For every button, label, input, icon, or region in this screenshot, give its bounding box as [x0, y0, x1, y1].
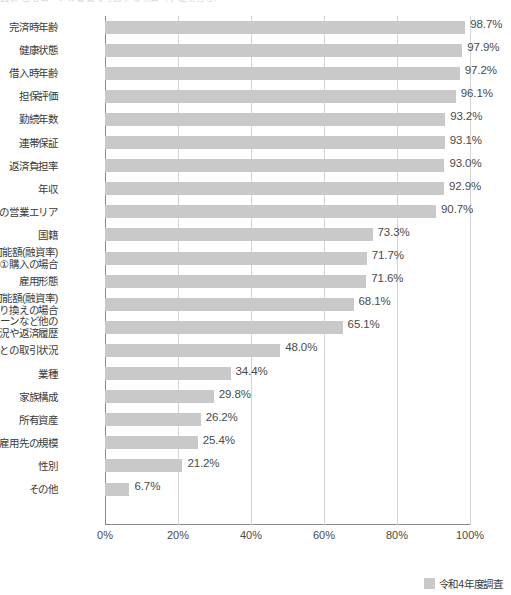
- bar-row: 71.6%雇用形態: [105, 270, 470, 293]
- chart-title-clipped: 図表 住宅ローンの審査で考慮する項目（予定を含む）: [0, 0, 511, 4]
- x-tick-label: 100%: [456, 529, 484, 541]
- x-tick-label: 40%: [240, 529, 262, 541]
- bar: [105, 67, 460, 80]
- bar: [105, 321, 343, 334]
- x-tick-label: 80%: [386, 529, 408, 541]
- bar-value-label: 29.8%: [219, 388, 251, 400]
- bar: [105, 413, 201, 426]
- category-label: 業種: [0, 368, 58, 381]
- category-label: 家族構成: [0, 391, 58, 404]
- bar: [105, 390, 214, 403]
- bar-row: 26.2%所有資産: [105, 409, 470, 432]
- bar-row: 93.1%連帯保証: [105, 132, 470, 155]
- bar: [105, 459, 182, 472]
- x-tick-label: 60%: [313, 529, 335, 541]
- category-label: 年収: [0, 183, 58, 196]
- bar-chart: 図表 住宅ローンの審査で考慮する項目（予定を含む） 98.7%完済時年齢97.9…: [0, 0, 511, 595]
- bar-value-label: 96.1%: [461, 87, 493, 99]
- bar: [105, 205, 436, 218]
- category-label: 金融機関の営業エリア: [0, 206, 58, 219]
- chart-title-text: 図表 住宅ローンの審査で考慮する項目（予定を含む）: [0, 0, 511, 4]
- bar-row: 92.9%年収: [105, 178, 470, 201]
- category-label: 返済負担率: [0, 160, 58, 173]
- category-label: 借入時年齢: [0, 67, 58, 80]
- bar: [105, 159, 444, 172]
- bar-row: 25.4%雇用先の規模: [105, 432, 470, 455]
- bar-value-label: 92.9%: [449, 180, 481, 192]
- bar: [105, 182, 444, 195]
- bar-value-label: 6.7%: [134, 480, 160, 492]
- bar-row: 6.7%その他: [105, 478, 470, 501]
- bar: [105, 113, 445, 126]
- bar-row: 65.1%カードローンなど他の 債務の状況や返済履歴: [105, 316, 470, 339]
- bar-value-label: 97.9%: [467, 41, 499, 53]
- bar-value-label: 97.2%: [465, 64, 497, 76]
- bar-row: 21.2%性別: [105, 455, 470, 478]
- category-label: 申込人との取引状況: [0, 344, 58, 357]
- bar: [105, 298, 354, 311]
- chart-legend: 令和4年度調査: [424, 576, 503, 591]
- category-label: 所有資産: [0, 414, 58, 427]
- category-label: 担保評価: [0, 90, 58, 103]
- bar-value-label: 93.0%: [449, 157, 481, 169]
- bar: [105, 136, 445, 149]
- legend-label: 令和4年度調査: [439, 576, 503, 591]
- bar-value-label: 26.2%: [206, 411, 238, 423]
- bar-value-label: 71.7%: [372, 249, 404, 261]
- bar-value-label: 25.4%: [203, 434, 235, 446]
- category-label: 国籍: [0, 229, 58, 242]
- category-label: 融資可能額(融資率) ①購入の場合: [0, 246, 58, 270]
- x-tick-label: 20%: [167, 529, 189, 541]
- x-tick-label: 0%: [97, 529, 113, 541]
- bar-row: 34.4%業種: [105, 363, 470, 386]
- category-label: その他: [0, 483, 58, 496]
- bar-row: 68.1%融資可能額(融資率) ②借り換えの場合: [105, 293, 470, 316]
- bar-value-label: 68.1%: [359, 295, 391, 307]
- bar-value-label: 73.3%: [378, 226, 410, 238]
- category-label: 連帯保証: [0, 137, 58, 150]
- bar-row: 90.7%金融機関の営業エリア: [105, 201, 470, 224]
- bar: [105, 436, 198, 449]
- bar-value-label: 93.2%: [450, 110, 482, 122]
- bar-row: 97.9%健康状態: [105, 39, 470, 62]
- category-label: 健康状態: [0, 44, 58, 57]
- bar-row: 97.2%借入時年齢: [105, 62, 470, 85]
- bar-row: 73.3%国籍: [105, 224, 470, 247]
- bar: [105, 44, 462, 57]
- bar-value-label: 90.7%: [441, 203, 473, 215]
- bar-row: 48.0%申込人との取引状況: [105, 339, 470, 362]
- bar-row: 29.8%家族構成: [105, 386, 470, 409]
- legend-swatch-icon: [424, 578, 435, 589]
- bar-row: 93.2%勤続年数: [105, 108, 470, 131]
- bar-row: 71.7%融資可能額(融資率) ①購入の場合: [105, 247, 470, 270]
- bar-value-label: 34.4%: [236, 365, 268, 377]
- bar-rows: 98.7%完済時年齢97.9%健康状態97.2%借入時年齢96.1%担保評価93…: [105, 16, 470, 525]
- x-axis-ticks: 0%20%40%60%80%100%: [105, 529, 470, 545]
- bar: [105, 228, 373, 241]
- category-label: カードローンなど他の 債務の状況や返済履歴: [0, 315, 58, 339]
- bar-value-label: 48.0%: [285, 341, 317, 353]
- category-label: 雇用形態: [0, 275, 58, 288]
- bar-row: 98.7%完済時年齢: [105, 16, 470, 39]
- bar: [105, 252, 367, 265]
- bar: [105, 275, 366, 288]
- bar: [105, 344, 280, 357]
- bar-value-label: 98.7%: [470, 18, 502, 30]
- bar: [105, 483, 129, 496]
- bar: [105, 21, 465, 34]
- bar-value-label: 65.1%: [348, 318, 380, 330]
- category-label: 完済時年齢: [0, 21, 58, 34]
- bar: [105, 367, 231, 380]
- category-label: 勤続年数: [0, 113, 58, 126]
- bar-value-label: 93.1%: [450, 134, 482, 146]
- category-label: 融資可能額(融資率) ②借り換えの場合: [0, 292, 58, 316]
- bar-row: 96.1%担保評価: [105, 85, 470, 108]
- bar-value-label: 21.2%: [187, 457, 219, 469]
- category-label: 雇用先の規模: [0, 437, 58, 450]
- bar-value-label: 71.6%: [371, 272, 403, 284]
- category-label: 性別: [0, 460, 58, 473]
- plot-area: 98.7%完済時年齢97.9%健康状態97.2%借入時年齢96.1%担保評価93…: [105, 16, 470, 525]
- bar-row: 93.0%返済負担率: [105, 155, 470, 178]
- bar: [105, 90, 456, 103]
